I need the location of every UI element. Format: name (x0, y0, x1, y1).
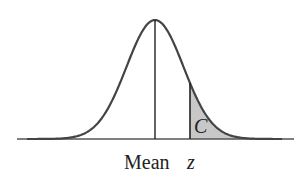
normal-curve-diagram: C Mean z (0, 0, 307, 183)
area-label-c: C (194, 115, 208, 137)
mean-label: Mean (124, 151, 170, 173)
z-label: z (186, 151, 195, 173)
